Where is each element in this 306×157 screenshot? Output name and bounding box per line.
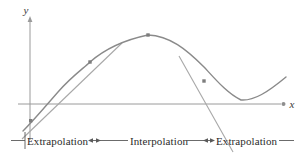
data-curve xyxy=(23,35,286,131)
x-axis-label: x xyxy=(289,98,295,110)
data-point-marker xyxy=(29,119,32,122)
figure-interpolation-extrapolation: y x Extrapolation xyxy=(0,0,306,157)
x-axis-arrowhead xyxy=(282,102,286,106)
interpolation-label: Interpolation xyxy=(130,135,189,147)
x-axis-group: x xyxy=(18,98,295,110)
plot-area: y x Extrapolation xyxy=(0,0,306,157)
data-point-marker xyxy=(146,33,149,36)
left-extrapolation-label: Extrapolation xyxy=(27,135,89,147)
data-point-markers xyxy=(29,33,206,122)
y-axis-label: y xyxy=(23,4,29,16)
right-extrapolation-label: Extrapolation xyxy=(216,135,278,147)
data-point-marker xyxy=(88,60,91,63)
separator-arrow-right xyxy=(203,138,215,142)
left-extrapolation-line xyxy=(22,43,122,139)
y-axis-arrowhead xyxy=(28,16,33,22)
region-label-row: Extrapolation Interpolation Extrapolatio… xyxy=(11,132,294,149)
separator-arrow-left xyxy=(88,138,101,142)
data-point-marker xyxy=(202,79,205,82)
